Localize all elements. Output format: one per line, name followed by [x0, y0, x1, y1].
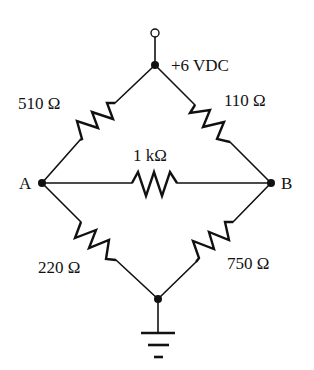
supply-voltage-label: +6 VDC: [171, 56, 229, 75]
node-a-label: A: [19, 174, 32, 193]
wire: [42, 140, 80, 183]
wire: [115, 65, 155, 103]
resistor-750-label: 750 Ω: [227, 254, 269, 273]
resistor-510-label: 510 Ω: [18, 94, 60, 113]
wire: [42, 183, 81, 222]
resistor-zigzag-icon: [77, 103, 115, 140]
resistor-110-label: 110 Ω: [224, 91, 266, 110]
bridge-circuit-diagram: +6 VDC 510 Ω 110 Ω 1 kΩ A B 220 Ω 750 Ω: [0, 0, 314, 370]
resistor-zigzag-icon: [190, 105, 230, 142]
wire: [233, 183, 271, 222]
resistor-zigzag-icon: [132, 172, 177, 196]
supply-terminal: [151, 29, 159, 65]
resistor-1k-branch: [42, 172, 271, 196]
wire: [116, 260, 158, 299]
wire: [158, 262, 196, 299]
wire: [230, 142, 271, 183]
resistor-zigzag-icon: [75, 222, 116, 260]
resistor-510-branch: [42, 65, 155, 183]
ground-icon: [141, 299, 175, 357]
resistor-1k-label: 1 kΩ: [133, 146, 167, 165]
resistor-110-branch: [155, 65, 271, 183]
resistor-220-branch: [42, 183, 158, 299]
node-b-label: B: [281, 174, 292, 193]
resistor-220-label: 220 Ω: [38, 258, 80, 277]
open-terminal-icon: [151, 29, 159, 37]
resistor-750-branch: [158, 183, 271, 299]
